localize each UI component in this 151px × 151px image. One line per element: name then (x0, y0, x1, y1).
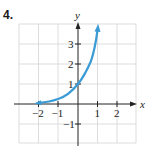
y-tick-2: 2 (68, 58, 74, 70)
y-tick-neg1: −1 (63, 118, 75, 130)
x-axis-label: x (139, 98, 145, 110)
y-axis-label: y (74, 9, 80, 21)
x-tick-neg2: −2 (32, 107, 44, 119)
exponential-graph: −2 −1 1 2 3 2 1 −1 x y (0, 0, 151, 151)
x-tick-1: 1 (95, 107, 101, 119)
y-tick-1: 1 (68, 78, 74, 90)
x-tick-2: 2 (114, 107, 120, 119)
x-tick-neg1: −1 (52, 107, 64, 119)
y-tick-3: 3 (68, 38, 74, 50)
